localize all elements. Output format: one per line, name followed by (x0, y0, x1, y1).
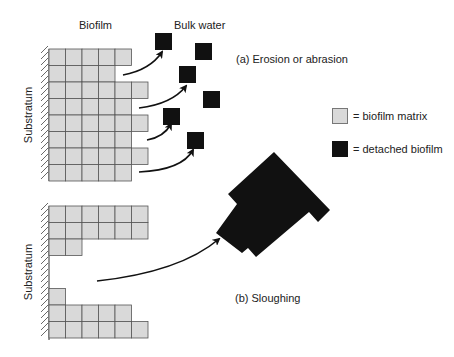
biofilm-cell (99, 82, 116, 99)
biofilm-cell (132, 82, 149, 99)
hatch-line (41, 46, 48, 53)
panel-b-caption: (b) Sloughing (235, 292, 300, 304)
biofilm-cell (132, 322, 149, 339)
biofilm-cell (99, 132, 116, 149)
biofilm-cell (66, 239, 83, 256)
biofilm-cell (99, 223, 116, 240)
hatch-line (41, 329, 48, 336)
hatch-line (41, 58, 48, 65)
legend-matrix-label: = biofilm matrix (353, 110, 427, 122)
biofilm-cell (115, 223, 132, 240)
biofilm-cell (49, 322, 66, 339)
biofilm-cell (99, 66, 116, 83)
biofilm-cell (82, 165, 99, 182)
biofilm-cell (49, 223, 66, 240)
hatch-line (41, 136, 48, 143)
biofilm-grid-top (49, 49, 148, 181)
biofilm-cell (66, 148, 83, 165)
biofilm-cell (115, 148, 132, 165)
bulk-water-label: Bulk water (174, 19, 225, 31)
arrow (147, 124, 171, 140)
biofilm-cell (115, 99, 132, 116)
biofilm-cell (115, 82, 132, 99)
biofilm-cell (115, 49, 132, 66)
biofilm-cell (49, 49, 66, 66)
biofilm-cell (49, 289, 66, 306)
biofilm-cell (82, 223, 99, 240)
hatch-line (41, 287, 48, 294)
biofilm-cell (66, 165, 83, 182)
biofilm-cell (49, 148, 66, 165)
biofilm-cell (99, 115, 116, 132)
hatch-line (41, 281, 48, 288)
biofilm-cell (82, 66, 99, 83)
substratum-wall-top (41, 46, 49, 181)
biofilm-cell (66, 305, 83, 322)
hatch-line (41, 299, 48, 306)
detached-swatch-icon (332, 141, 348, 157)
hatch-line (41, 88, 48, 95)
matrix-swatch-icon (332, 108, 348, 124)
biofilm-cell (49, 305, 66, 322)
hatch-line (41, 263, 48, 270)
biofilm-cell (49, 239, 66, 256)
hatch-line (41, 293, 48, 300)
detached-square (203, 91, 220, 108)
hatch-line (41, 221, 48, 228)
hatch-line (41, 239, 48, 246)
detached-square (195, 43, 212, 60)
hatch-line (41, 311, 48, 318)
biofilm-cell (115, 165, 132, 182)
biofilm-cell (99, 99, 116, 116)
biofilm-cell (132, 223, 149, 240)
biofilm-label: Biofilm (79, 19, 112, 31)
biofilm-cell (115, 322, 132, 339)
sloughing-arrow (97, 239, 219, 281)
biofilm-cell (99, 49, 116, 66)
biofilm-cell (99, 165, 116, 182)
biofilm-cell (99, 322, 116, 339)
panel-a-erosion (41, 33, 220, 181)
hatch-line (41, 305, 48, 312)
hatch-line (41, 76, 48, 83)
substratum-label-bottom: Substratum (22, 244, 34, 300)
detached-square (179, 66, 196, 83)
biofilm-detachment-diagram (0, 0, 454, 357)
hatch-line (41, 166, 48, 173)
biofilm-cell (115, 115, 132, 132)
biofilm-cell (82, 206, 99, 223)
biofilm-cell (49, 132, 66, 149)
hatch-line (41, 148, 48, 155)
biofilm-cell (66, 223, 83, 240)
hatch-line (41, 203, 48, 210)
hatch-line (41, 323, 48, 330)
detached-square (163, 108, 180, 125)
hatch-line (41, 269, 48, 276)
biofilm-cell (49, 206, 66, 223)
hatch-line (41, 251, 48, 258)
hatch-line (41, 209, 48, 216)
hatch-line (41, 64, 48, 71)
hatch-line (41, 172, 48, 179)
biofilm-cell (66, 206, 83, 223)
hatch-line (41, 215, 48, 222)
hatch-line (41, 317, 48, 324)
hatch-line (41, 118, 48, 125)
sloughed-biofilm-shape (216, 152, 330, 257)
detached-square (187, 132, 204, 149)
hatch-line (41, 233, 48, 240)
biofilm-cell (49, 165, 66, 182)
arrow (97, 239, 219, 281)
hatch-line (41, 227, 48, 234)
biofilm-cell (66, 115, 83, 132)
hatch-line (41, 142, 48, 149)
hatch-line (41, 154, 48, 161)
biofilm-cell (132, 115, 149, 132)
hatch-line (41, 245, 48, 252)
biofilm-cell (115, 132, 132, 149)
biofilm-cell (82, 148, 99, 165)
biofilm-cell (49, 99, 66, 116)
substratum-wall-bottom (41, 203, 49, 340)
panel-a-caption: (a) Erosion or abrasion (236, 53, 348, 65)
substratum-label-top: Substratum (22, 87, 34, 143)
